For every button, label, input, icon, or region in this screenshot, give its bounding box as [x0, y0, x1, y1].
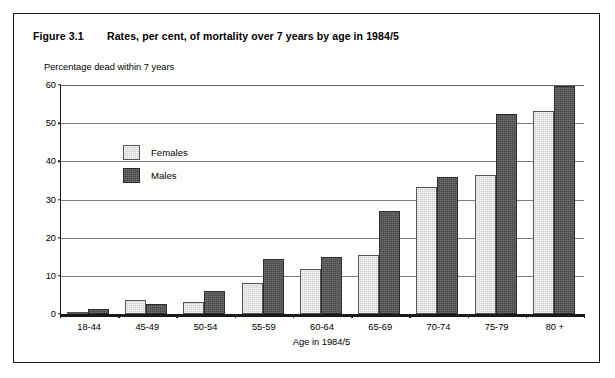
x-tick-label: 18-44 [60, 322, 118, 332]
bar-group [469, 85, 527, 314]
bar-males-6569 [379, 211, 400, 314]
x-tick-label: 60-64 [293, 322, 351, 332]
x-tick-label: 50-54 [176, 322, 234, 332]
bar-males-4549 [146, 304, 167, 314]
figure-number: Figure 3.1 [33, 30, 107, 42]
figure-title-text: Rates, per cent, of mortality over 7 yea… [107, 30, 399, 42]
bar-females-7074 [416, 187, 437, 314]
x-tick-mark [468, 314, 469, 318]
y-tick-label: 10 [36, 271, 56, 281]
x-axis-title: Age in 1984/5 [14, 337, 615, 347]
bar-females-80+ [533, 111, 554, 314]
legend-label-males: Males [151, 170, 177, 181]
y-axis-title: Percentage dead within 7 years [44, 62, 174, 72]
x-tick-mark [235, 314, 236, 318]
figure-frame: Figure 3.1Rates, per cent, of mortality … [13, 13, 600, 363]
chart-legend: FemalesMales [123, 145, 188, 191]
y-tick-label: 60 [36, 80, 56, 90]
x-tick-label: 65-69 [351, 322, 409, 332]
legend-swatch-males [123, 168, 140, 183]
y-tick-label: 50 [36, 118, 56, 128]
bar-males-7579 [496, 114, 517, 314]
x-tick-mark [293, 314, 294, 318]
x-tick-label: 75-79 [468, 322, 526, 332]
bar-males-80+ [554, 86, 575, 314]
bar-group [61, 85, 119, 314]
legend-item-males: Males [123, 168, 188, 183]
y-tick-label: 40 [36, 156, 56, 166]
figure-title: Figure 3.1Rates, per cent, of mortality … [33, 30, 399, 42]
x-tick-mark [60, 314, 61, 318]
plot-area [60, 85, 585, 314]
x-tick-mark [118, 314, 119, 318]
bar-females-5054 [183, 302, 204, 314]
x-tick-mark [584, 314, 585, 318]
bar-group [352, 85, 410, 314]
x-tick-label: 80 + [526, 322, 584, 332]
x-axis-line [60, 314, 584, 317]
legend-label-females: Females [151, 147, 188, 158]
bar-females-6064 [300, 269, 321, 314]
x-tick-mark [176, 314, 177, 318]
x-tick-label: 45-49 [118, 322, 176, 332]
x-tick-mark [409, 314, 410, 318]
x-tick-label: 70-74 [409, 322, 467, 332]
bar-group [294, 85, 352, 314]
bar-females-5559 [242, 283, 263, 314]
bar-males-6064 [321, 257, 342, 314]
bar-group [177, 85, 235, 314]
bar-group [119, 85, 177, 314]
bar-females-4549 [125, 300, 146, 315]
bar-males-5054 [204, 291, 225, 314]
bar-males-7074 [437, 177, 458, 314]
x-tick-label: 55-59 [235, 322, 293, 332]
bar-females-7579 [475, 175, 496, 314]
legend-swatch-females [123, 145, 140, 160]
y-tick-label: 30 [36, 195, 56, 205]
y-tick-label: 20 [36, 233, 56, 243]
y-tick-label: 0 [36, 309, 56, 319]
x-tick-mark [526, 314, 527, 318]
bar-group [410, 85, 468, 314]
legend-item-females: Females [123, 145, 188, 160]
bar-females-6569 [358, 255, 379, 314]
bar-group [236, 85, 294, 314]
x-tick-mark [351, 314, 352, 318]
bar-males-5559 [263, 259, 284, 314]
bar-group [527, 85, 585, 314]
